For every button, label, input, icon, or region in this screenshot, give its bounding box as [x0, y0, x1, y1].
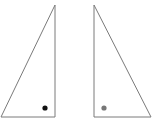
- figure-canvas: [0, 0, 152, 124]
- left-triangle: [1, 5, 55, 117]
- left-right-angle-dot: [42, 105, 47, 110]
- right-triangle: [94, 5, 151, 117]
- right-right-angle-dot: [101, 105, 106, 110]
